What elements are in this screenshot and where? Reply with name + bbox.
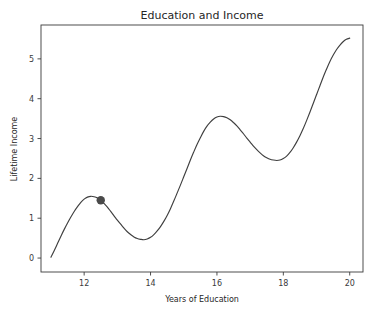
plot-background [41,25,363,272]
y-tick-label: 5 [29,55,34,64]
x-axis-label: Years of Education [164,295,239,304]
x-tick-label: 20 [345,279,355,288]
chart-title: Education and Income [141,9,264,22]
x-tick-label: 12 [79,279,89,288]
chart-canvas: Education and Income Lifetime Income Yea… [0,0,380,317]
chart-figure: Education and Income Lifetime Income Yea… [0,0,380,317]
y-tick-label: 3 [29,135,34,144]
y-tick-label: 2 [29,174,34,183]
x-tick-label: 16 [212,279,222,288]
plot-area: 1214161820 012345 [29,25,363,288]
y-tick-label: 0 [29,254,34,263]
x-tick-label: 14 [145,279,155,288]
y-axis-label: Lifetime Income [10,117,19,182]
y-tick-label: 1 [29,214,34,223]
data-point-marker [97,196,105,204]
y-tick-label: 4 [29,95,34,104]
x-tick-label: 18 [278,279,288,288]
data-point-markers [97,196,105,204]
